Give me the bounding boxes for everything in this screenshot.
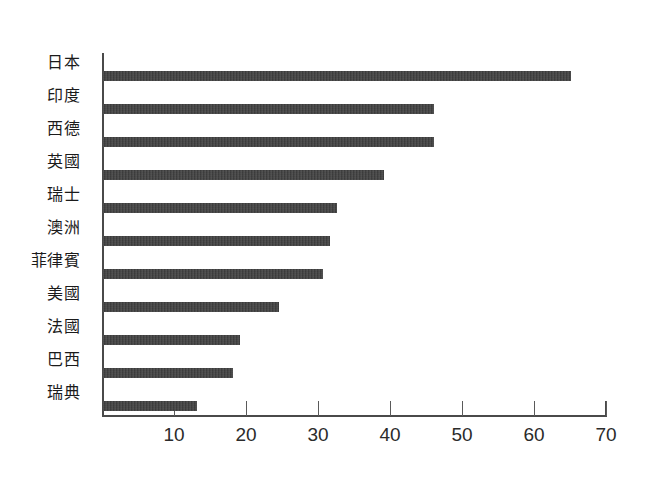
category-label: 日本 (0, 55, 80, 71)
x-axis-tick-label: 20 (216, 424, 276, 446)
category-label: 英國 (0, 154, 80, 170)
category-label: 西德 (0, 121, 80, 137)
category-label: 瑞士 (0, 187, 80, 203)
bar (103, 401, 197, 411)
x-axis-tick-label: 70 (576, 424, 636, 446)
x-axis-tick-label: 30 (288, 424, 348, 446)
bar (103, 302, 279, 312)
x-axis-tick (462, 401, 463, 416)
category-label: 法國 (0, 319, 80, 335)
category-label: 美國 (0, 286, 80, 302)
x-axis-tick-label: 60 (504, 424, 564, 446)
x-axis-tick-label: 50 (432, 424, 492, 446)
bar (103, 137, 434, 147)
x-axis-tick-label: 10 (144, 424, 204, 446)
category-label: 印度 (0, 88, 80, 104)
plot-area: 10 20 30 40 50 60 70 (102, 53, 606, 416)
bar (103, 71, 571, 81)
bar-chart: 日本 印度 西德 英國 瑞士 澳洲 菲律賓 美國 法國 巴西 瑞典 10 20 … (0, 0, 655, 477)
x-axis-tick (318, 401, 319, 416)
category-label: 巴西 (0, 352, 80, 368)
bar (103, 335, 240, 345)
bar (103, 269, 323, 279)
x-axis-tick (606, 401, 607, 416)
x-axis-tick-label: 40 (360, 424, 420, 446)
bar (103, 368, 233, 378)
bar (103, 104, 434, 114)
bar (103, 203, 337, 213)
bar (103, 170, 384, 180)
category-axis-labels: 日本 印度 西德 英國 瑞士 澳洲 菲律賓 美國 法國 巴西 瑞典 (0, 53, 92, 416)
category-label: 菲律賓 (0, 253, 80, 269)
category-label: 澳洲 (0, 220, 80, 236)
x-axis-tick (534, 401, 535, 416)
x-axis-line (102, 415, 607, 417)
x-axis-tick (246, 401, 247, 416)
x-axis-tick (390, 401, 391, 416)
category-label: 瑞典 (0, 385, 80, 401)
bar (103, 236, 330, 246)
